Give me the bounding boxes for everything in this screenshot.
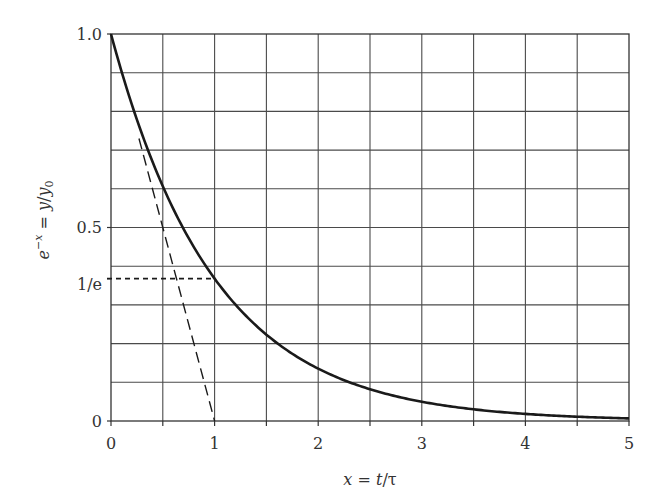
exponential-decay-chart: 1.0 0.5 1/e 0 0 1 2 3 4 5 x = t/τ e−x = … [0, 0, 664, 503]
x-tick-label-0: 0 [106, 434, 116, 453]
y-tick-label-1: 1.0 [77, 25, 102, 44]
x-axis-label: x = t/τ [343, 470, 396, 489]
y-tick-label-inv-e: 1/e [77, 275, 102, 294]
x-tick-label-5: 5 [624, 434, 634, 453]
x-tick-label-3: 3 [417, 434, 427, 453]
initial-tangent-line [139, 138, 215, 421]
y-tick-label-0: 0 [92, 412, 102, 431]
x-tick-label-4: 4 [520, 434, 530, 453]
grid-lines [111, 34, 629, 421]
y-tick-label-0-5: 0.5 [77, 218, 102, 237]
x-tick-label-1: 1 [210, 434, 220, 453]
y-axis-label: e−x = y/y0 [32, 181, 56, 260]
x-tick-label-2: 2 [313, 434, 323, 453]
